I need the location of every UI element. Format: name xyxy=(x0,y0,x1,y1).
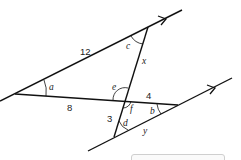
upper-parallel-line xyxy=(0,10,182,101)
transversal-steep xyxy=(114,27,148,137)
length-label-4: 4 xyxy=(146,90,151,101)
transversal-horizontal xyxy=(15,94,178,105)
angle-label-e: e xyxy=(112,82,116,92)
angle-label-b: b xyxy=(150,106,155,116)
angle-label-d: d xyxy=(123,118,128,128)
length-label-3: 3 xyxy=(107,113,112,124)
angle-arc-b xyxy=(157,104,161,114)
angle-label-f: f xyxy=(130,104,134,114)
length-label-y: y xyxy=(142,126,148,136)
angle-arc-a xyxy=(44,80,46,96)
answer-input-box[interactable] xyxy=(131,154,225,160)
length-label-8: 8 xyxy=(67,102,72,113)
length-label-x: x xyxy=(141,56,147,66)
angle-label-c: c xyxy=(126,41,131,51)
geometry-diagram: 12 8 4 3 x y a c e f b d xyxy=(0,0,241,160)
length-label-12: 12 xyxy=(80,46,91,57)
angle-arc-c xyxy=(131,36,143,44)
angle-label-a: a xyxy=(49,82,54,92)
